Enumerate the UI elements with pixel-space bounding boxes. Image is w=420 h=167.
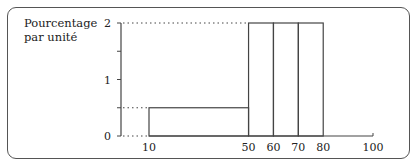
histogram-bar (273, 23, 298, 136)
y-tick-label: 1 (104, 74, 111, 87)
y-axis-label-line-2: par unité (24, 30, 77, 44)
histogram-bar (149, 108, 249, 136)
x-tick-label: 70 (291, 141, 305, 154)
x-tick-label: 10 (142, 141, 156, 154)
x-tick-label: 50 (242, 141, 256, 154)
x-tick-label: 60 (266, 141, 280, 154)
x-tick-label: 100 (363, 141, 384, 154)
histogram-bar (298, 23, 323, 136)
histogram-chart: Pourcentage par unité 0121050607080100 (0, 0, 420, 167)
y-axis-label-line-1: Pourcentage (24, 16, 98, 30)
x-tick-label: 80 (316, 141, 330, 154)
histogram-bar (249, 23, 274, 136)
y-tick-label: 0 (104, 130, 111, 143)
y-tick-label: 2 (104, 17, 111, 30)
